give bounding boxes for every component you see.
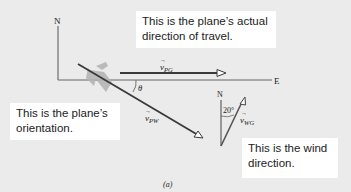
callout-actual-direction: This is the plane’s actual direction of … bbox=[136, 11, 276, 48]
wind-angle-arc bbox=[221, 115, 234, 117]
callout-line: This is the plane’s bbox=[16, 106, 114, 121]
wind-angle-label: 20° bbox=[223, 106, 234, 115]
arrowhead-icon bbox=[217, 70, 226, 77]
vector-arrow-mark: → bbox=[145, 108, 151, 114]
callout-line: orientation. bbox=[16, 121, 114, 136]
callout-line: This is the wind bbox=[248, 141, 332, 156]
vector-arrow-mark: → bbox=[241, 110, 247, 116]
v-pw-label: vPW bbox=[145, 113, 159, 124]
wind-north-label: N bbox=[217, 90, 223, 99]
east-label: E bbox=[274, 76, 280, 86]
theta-label: θ bbox=[138, 83, 142, 93]
callout-wind-direction: This is the wind direction. bbox=[242, 138, 338, 178]
v-pg-vector: vPG → bbox=[120, 57, 226, 77]
v-wg-label: vWG bbox=[240, 115, 254, 126]
callout-line: This is the plane’s actual bbox=[142, 14, 270, 29]
callout-line: direction. bbox=[248, 156, 332, 171]
north-label: N bbox=[54, 16, 61, 26]
vector-arrow-mark: → bbox=[160, 57, 166, 63]
arrowhead-icon bbox=[240, 97, 246, 105]
v-pg-label: vPG bbox=[160, 62, 173, 73]
callout-line: direction of travel. bbox=[142, 29, 270, 44]
figure-caption: (a) bbox=[163, 180, 173, 189]
arrowhead-icon bbox=[194, 131, 203, 138]
callout-orientation: This is the plane’s orientation. bbox=[10, 103, 120, 140]
theta-angle: θ bbox=[133, 80, 142, 93]
